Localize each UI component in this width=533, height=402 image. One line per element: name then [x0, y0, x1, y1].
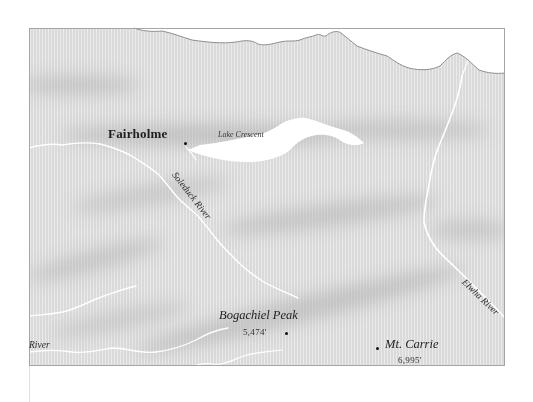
elevation-bogachiel-peak: 5,474': [243, 327, 267, 337]
label-lake-crescent: Lake Crescent: [218, 130, 264, 139]
bogachiel-peak-point: [285, 332, 288, 335]
fairholme-point: [184, 142, 187, 145]
label-river-partial: River: [29, 340, 50, 350]
mt-carrie-point: [376, 347, 379, 350]
label-fairholme: Fairholme: [108, 126, 168, 142]
elevation-mt-carrie: 6,995': [398, 355, 422, 365]
map: [0, 0, 533, 402]
label-mt-carrie: Mt. Carrie: [385, 337, 438, 352]
label-bogachiel-peak: Bogachiel Peak: [219, 308, 298, 323]
